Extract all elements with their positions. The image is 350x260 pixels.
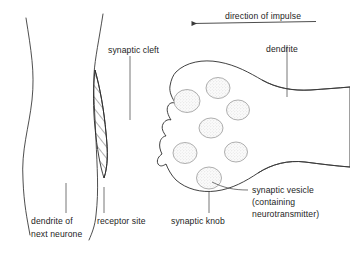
vesicle [206,78,230,99]
label-dendrite: dendrite [266,44,298,55]
synapse-diagram: direction of impulse dendrite synaptic c… [0,0,350,260]
label-dendrite-of-next-neurone-line1: dendrite of [31,216,73,227]
vesicle [174,90,200,113]
label-synaptic-knob: synaptic knob [171,216,225,227]
label-dendrite-of-next-neurone-line2: next neurone [31,229,82,240]
label-synaptic-vesicle-line2: (containing [252,197,295,208]
label-synaptic-cleft: synaptic cleft [108,45,159,56]
next-neurone-dendrite-shape [23,14,103,240]
label-receptor-site: receptor site [97,216,146,227]
label-synaptic-vesicle-line1: synaptic vesicle [252,185,314,196]
label-synaptic-vesicle-line3: neurotransmitter) [252,209,319,220]
vesicle [197,167,222,189]
synaptic-knob-shape [157,61,350,192]
vesicle [227,100,250,120]
label-direction-of-impulse: direction of impulse [225,11,301,22]
vesicle [225,142,248,162]
vesicle [199,118,223,138]
vesicle [173,143,197,164]
receptor-site-shape [94,70,108,178]
direction-of-impulse-arrow [192,22,316,24]
